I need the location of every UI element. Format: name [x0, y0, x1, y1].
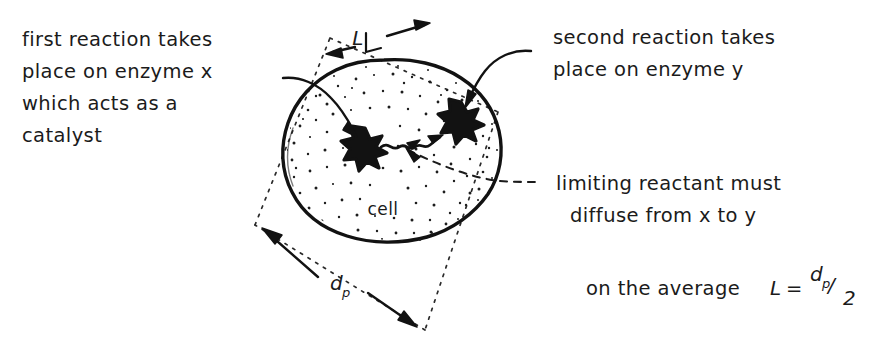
first-reaction-note-line-2: place on enzyme x	[22, 60, 213, 83]
dimension-L-label: L	[352, 26, 364, 50]
cell-label: cell	[368, 199, 399, 219]
dimension-dp-sub: p	[341, 285, 351, 300]
dimension-L: L	[326, 20, 430, 58]
second-reaction-leader-arrow	[465, 51, 531, 108]
second-reaction-note-line-1: second reaction takes	[553, 26, 775, 49]
hand-drawn-diagram: L d p cell first reaction takes place on…	[0, 0, 878, 341]
diffusion-wavy-path	[381, 135, 443, 149]
second-reaction-note-line-2: place on enzyme y	[553, 58, 744, 81]
formula-prefix: on the average	[586, 277, 740, 300]
first-reaction-note: first reaction takes place on enzyme x w…	[22, 28, 213, 147]
second-reaction-note: second reaction takes place on enzyme y	[553, 26, 775, 81]
first-reaction-note-line-1: first reaction takes	[22, 28, 212, 51]
limiting-reactant-note-line-2: diffuse from x to y	[570, 204, 756, 227]
limiting-reactant-note: limiting reactant must diffuse from x to…	[556, 172, 781, 227]
limiting-reactant-note-line-1: limiting reactant must	[556, 172, 781, 195]
limiting-reactant-leader	[406, 148, 540, 182]
formula-equals: =	[786, 277, 803, 300]
enzyme-y-star	[438, 99, 484, 144]
formula-denominator: 2	[843, 286, 856, 310]
bounding-square-dashed	[255, 38, 498, 330]
first-reaction-note-line-4: catalyst	[22, 124, 102, 147]
formula-slash: /	[826, 273, 837, 297]
average-length-formula: on the average L = d p / 2	[586, 262, 856, 310]
formula-symbol-L: L	[770, 276, 782, 300]
figure-root: L d p cell first reaction takes place on…	[0, 0, 878, 341]
first-reaction-note-line-3: which acts as a	[22, 92, 178, 115]
